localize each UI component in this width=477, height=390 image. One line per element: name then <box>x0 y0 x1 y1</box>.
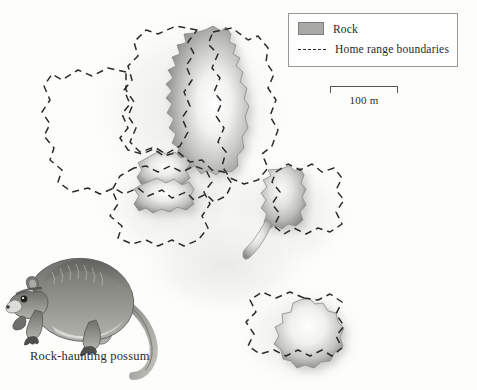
possum-raised-paw <box>13 316 26 330</box>
scale-bar-line <box>330 86 398 93</box>
dashed-line-icon <box>298 49 326 50</box>
legend-item-home-range: Home range boundaries <box>298 43 449 55</box>
rock-swatch-icon <box>298 22 324 35</box>
legend-label-home-range: Home range boundaries <box>335 43 449 55</box>
scale-bar-label: 100 m <box>330 94 398 106</box>
scale-bar: 100 m <box>330 86 398 106</box>
legend-label-rock: Rock <box>333 23 358 35</box>
possum-eye <box>21 296 28 303</box>
legend: Rock Home range boundaries <box>288 13 458 67</box>
possum-nose <box>6 305 10 309</box>
possum-caption: Rock-haunting possum <box>30 349 150 364</box>
possum-eye-highlight <box>22 297 24 299</box>
figure-rock-haunting-possum-home-ranges: Rock Home range boundaries 100 m Rock-ha… <box>0 0 477 390</box>
legend-item-rock: Rock <box>298 22 358 35</box>
possum-tail <box>128 305 154 376</box>
